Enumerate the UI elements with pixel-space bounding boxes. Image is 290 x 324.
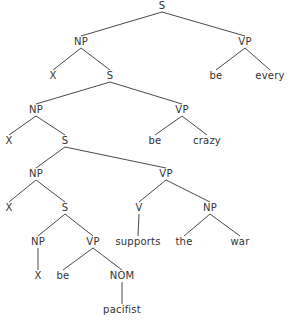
tree-node-s2: S (62, 135, 69, 146)
tree-edge-np1-x1 (53, 48, 81, 70)
tree-node-be1: be (210, 70, 223, 81)
tree-edge-np1-s1 (81, 48, 110, 70)
syntax-tree-diagram: SNPVPXSbeeveryNPVPXSbecrazyNPVPXSVNPNPVP… (0, 0, 290, 324)
tree-edge-vp3-np4 (166, 180, 210, 202)
tree-node-vp4: VP (86, 236, 99, 247)
tree-node-the: the (175, 236, 192, 247)
tree-edge-s1-np2 (36, 82, 110, 104)
tree-edge-s1-vp2 (110, 82, 182, 104)
tree-edge-s3-np5 (38, 214, 65, 236)
tree-edge-vp1-every (245, 48, 270, 70)
tree-node-pacifist: pacifist (103, 304, 141, 315)
tree-edge-vp4-nom (93, 248, 122, 270)
tree-node-x1: X (49, 70, 56, 81)
tree-edge-vp4-be3 (63, 248, 93, 270)
tree-edge-s2-np3 (36, 147, 65, 168)
tree-edge-np2-s2 (36, 116, 65, 135)
tree-node-x3: X (5, 202, 12, 213)
tree-node-vp1: VP (238, 36, 251, 47)
tree-node-np2: NP (29, 104, 43, 115)
tree-node-s3: S (62, 202, 69, 213)
tree-edge-np4-war (210, 214, 240, 236)
tree-node-np5: NP (31, 236, 45, 247)
tree-node-vp2: VP (175, 104, 188, 115)
tree-node-supports: supports (115, 236, 160, 247)
tree-nodes: SNPVPXSbeeveryNPVPXSbecrazyNPVPXSVNPNPVP… (5, 0, 284, 315)
tree-edge-vp3-v (139, 180, 166, 202)
tree-node-np1: NP (74, 36, 88, 47)
tree-node-x4: X (34, 270, 41, 281)
tree-node-every: every (255, 70, 284, 81)
tree-node-vp3: VP (159, 168, 172, 179)
tree-node-be2: be (149, 135, 162, 146)
tree-edge-vp2-be2 (155, 116, 182, 135)
tree-edge-v-supports (138, 214, 139, 236)
tree-edge-s0-vp1 (162, 12, 245, 36)
tree-edge-np3-s3 (36, 180, 65, 202)
tree-edges (9, 12, 270, 304)
tree-node-be3: be (57, 270, 70, 281)
tree-node-v: V (135, 202, 142, 213)
tree-edge-s0-np1 (81, 12, 162, 36)
tree-node-np4: NP (203, 202, 217, 213)
tree-node-war: war (230, 236, 250, 247)
tree-node-s0: S (159, 0, 166, 11)
tree-edge-np4-the (184, 214, 210, 236)
tree-node-crazy: crazy (193, 135, 221, 146)
tree-edge-vp1-be1 (216, 48, 245, 70)
tree-edge-s2-vp3 (65, 147, 166, 168)
tree-node-x2: X (5, 135, 12, 146)
tree-node-np3: NP (29, 168, 43, 179)
tree-edge-s3-vp4 (65, 214, 93, 236)
tree-node-s1: S (107, 70, 114, 81)
tree-edge-np3-x3 (9, 180, 36, 202)
tree-node-nom: NOM (110, 270, 135, 281)
tree-edge-vp2-crazy (182, 116, 207, 135)
tree-edge-np2-x2 (9, 116, 36, 135)
